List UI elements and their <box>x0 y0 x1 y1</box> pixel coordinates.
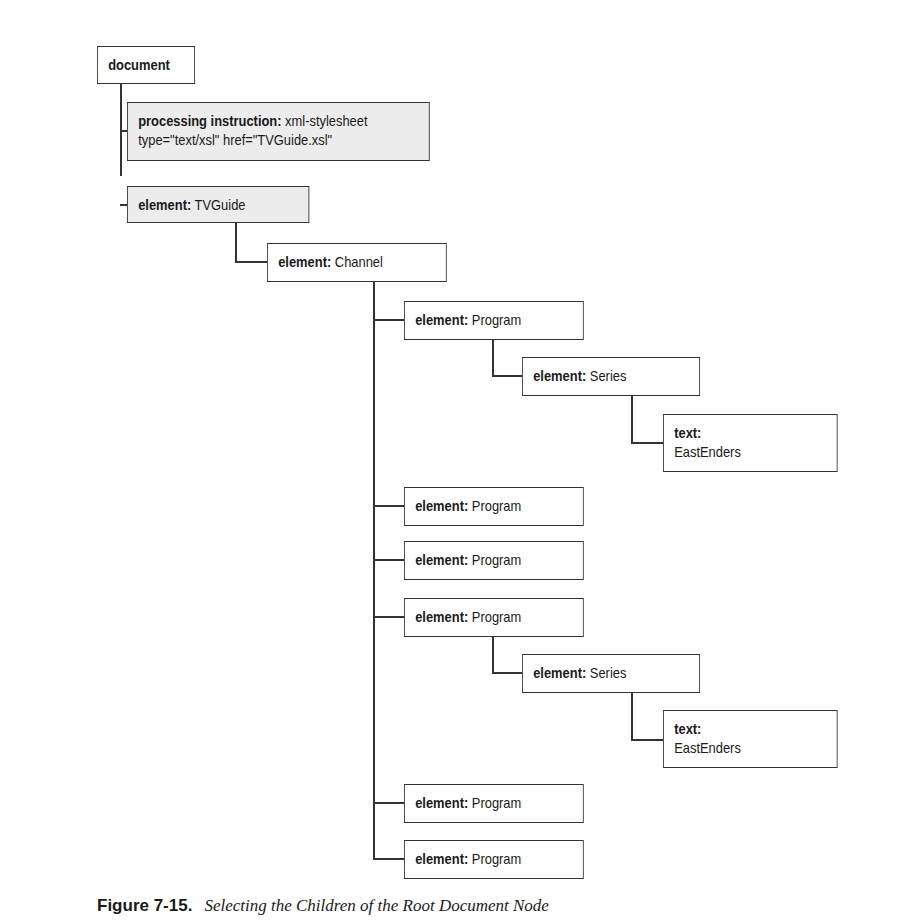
node-label: Series <box>586 367 626 384</box>
connector <box>235 261 268 263</box>
node-element-series: element: Series <box>522 357 700 396</box>
node-kind: element: <box>415 551 468 568</box>
node-label: EastEnders <box>674 739 741 756</box>
connector <box>373 616 405 618</box>
node-label: TVGuide <box>191 196 245 213</box>
node-label: EastEnders <box>674 443 741 460</box>
node-label: Program <box>468 311 521 328</box>
figure-title: Selecting the Children of the Root Docum… <box>204 896 549 915</box>
node-kind: element: <box>533 367 586 384</box>
node-kind: element: <box>415 794 468 811</box>
connector <box>631 395 633 443</box>
connector <box>373 281 375 859</box>
node-element-program: element: Program <box>404 840 584 879</box>
figure-caption: Figure 7-15.Selecting the Children of th… <box>97 896 549 916</box>
node-kind: element: <box>415 608 468 625</box>
connector <box>235 222 237 262</box>
node-label: Program <box>468 497 521 514</box>
node-element-tvguide: element: TVGuide <box>127 186 309 223</box>
connector <box>492 672 523 674</box>
connector <box>373 319 405 321</box>
node-element-program: element: Program <box>404 598 584 637</box>
connector <box>373 858 405 860</box>
node-kind: text: <box>674 720 701 737</box>
node-label: Program <box>468 551 521 568</box>
figure-label: Figure 7-15. <box>97 896 192 915</box>
node-label: Series <box>586 664 626 681</box>
connector <box>373 505 405 507</box>
node-element-channel: element: Channel <box>267 243 447 282</box>
connector <box>373 802 405 804</box>
node-element-program: element: Program <box>404 487 584 526</box>
node-kind: text: <box>674 424 701 441</box>
node-label: xml-stylesheet <box>282 112 368 129</box>
node-label: Channel <box>331 253 383 270</box>
node-kind: document <box>108 56 170 73</box>
connector <box>631 739 664 741</box>
node-element-program: element: Program <box>404 784 584 823</box>
node-kind: element: <box>415 497 468 514</box>
node-processing-instruction: processing instruction: xml-stylesheet t… <box>127 102 430 161</box>
node-kind: element: <box>415 850 468 867</box>
connector <box>492 339 494 376</box>
node-text: text: EastEnders <box>663 414 838 472</box>
node-text: text: EastEnders <box>663 710 838 768</box>
connector <box>492 636 494 673</box>
node-kind: element: <box>415 311 468 328</box>
connector <box>631 442 664 444</box>
connector <box>492 375 523 377</box>
node-kind: element: <box>278 253 331 270</box>
node-element-series: element: Series <box>522 654 700 693</box>
connector <box>631 692 633 740</box>
node-label: Program <box>468 794 521 811</box>
node-kind: processing instruction: <box>138 112 281 129</box>
node-document: document <box>97 46 195 84</box>
node-label: Program <box>468 850 521 867</box>
node-element-program: element: Program <box>404 301 584 340</box>
node-label: Program <box>468 608 521 625</box>
node-label-line2: type="text/xsl" href="TVGuide.xsl" <box>138 131 332 148</box>
node-kind: element: <box>533 664 586 681</box>
node-element-program: element: Program <box>404 541 584 580</box>
node-kind: element: <box>138 196 191 213</box>
connector <box>373 559 405 561</box>
